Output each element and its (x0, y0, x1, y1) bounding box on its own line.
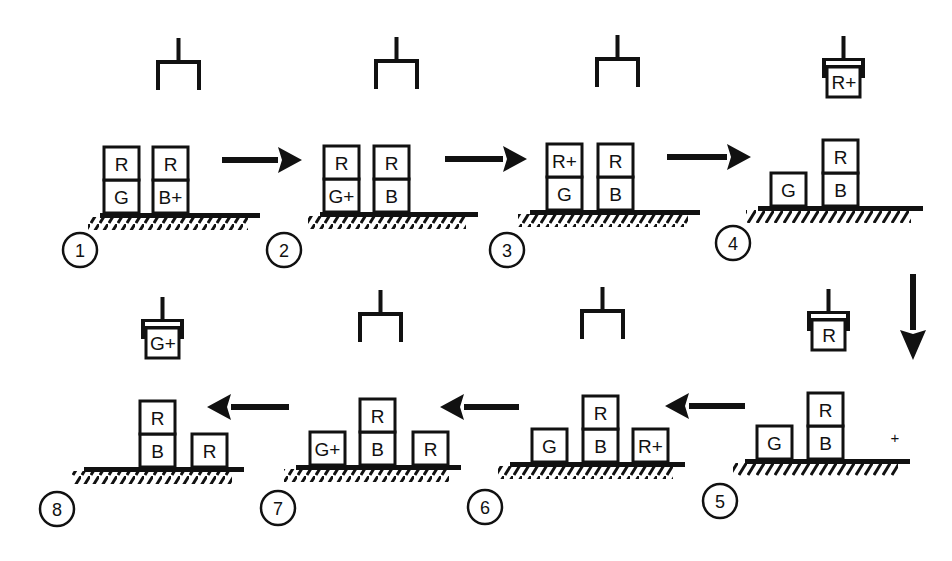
block-stack: G (771, 173, 806, 206)
step-number: 3 (490, 233, 524, 267)
gripper-icon (595, 35, 640, 87)
block-label: R+ (552, 151, 577, 172)
step-number: 6 (468, 490, 502, 524)
step-number-label: 2 (279, 241, 289, 261)
block-label: R (115, 154, 129, 175)
step-number: 1 (63, 233, 97, 267)
held-block-label: R (822, 325, 836, 346)
step-number: 4 (716, 226, 750, 260)
block-label: R (424, 439, 438, 460)
block-stack: BR (140, 401, 175, 467)
held-block: G+ (146, 328, 179, 358)
gripper-icon (358, 290, 403, 342)
block-label: B (594, 436, 607, 457)
block-label: R (594, 403, 608, 424)
gripper-icon: G+ (141, 297, 184, 358)
block-label: R (385, 153, 399, 174)
step-number-label: 7 (273, 499, 283, 519)
block-stack: R+ (633, 429, 668, 462)
block-label: G+ (315, 439, 341, 460)
block: R+ (547, 144, 582, 177)
block-label: R (203, 441, 217, 462)
block: G (757, 426, 792, 459)
block-stack: BR (374, 146, 409, 212)
block-stack: G+ (310, 432, 345, 465)
block: B (823, 173, 858, 206)
block: G (547, 177, 582, 210)
arrow-right-icon (667, 144, 751, 170)
arrow-right-icon (445, 146, 527, 172)
block: G (104, 180, 139, 213)
ground (284, 465, 461, 482)
block-stack: B+R (153, 147, 188, 213)
block-label: B (819, 433, 832, 454)
block-label: G (781, 180, 796, 201)
block: G+ (324, 179, 359, 212)
block-label: R (834, 147, 848, 168)
block: R (583, 396, 618, 429)
arrow-left-icon (440, 394, 519, 420)
panel-4: GBRR+4 (716, 36, 923, 260)
panel-3: GR+BR3 (490, 35, 700, 267)
gripper-icon (156, 38, 201, 90)
step-number-label: 5 (715, 492, 725, 512)
block-label: R (609, 151, 623, 172)
block-label: R (819, 400, 833, 421)
block-stack: BR (360, 399, 395, 465)
block-label: B (834, 180, 847, 201)
block-label: B (371, 439, 384, 460)
blocks-world-diagram: GRB+R1G+RBR2GR+BR3GBRR+4GBRR+5GBRR+6G+BR… (0, 0, 952, 561)
ground (308, 212, 478, 229)
step-number-label: 3 (502, 241, 512, 261)
block: R (413, 432, 448, 465)
block-stack: G (757, 426, 792, 459)
block: R (104, 147, 139, 180)
held-block-label: G+ (150, 333, 176, 354)
step-number-label: 4 (728, 234, 738, 254)
block: G (532, 429, 567, 462)
block-label: G (114, 187, 129, 208)
block-stack: BR (808, 393, 843, 459)
block: G (771, 173, 806, 206)
block: B+ (153, 180, 188, 213)
gripper-icon: R (807, 289, 850, 350)
block: B (140, 434, 175, 467)
step-number-label: 1 (75, 241, 85, 261)
block-label: B+ (159, 187, 183, 208)
panels-layer: GRB+R1G+RBR2GR+BR3GBRR+4GBRR+5GBRR+6G+BR… (40, 35, 923, 526)
arrow-down-icon (900, 274, 926, 360)
block: B (598, 177, 633, 210)
gripper-icon (374, 37, 419, 89)
step-number-label: 8 (52, 500, 62, 520)
block: R+ (633, 429, 668, 462)
block: B (583, 429, 618, 462)
ground (733, 459, 910, 476)
block-stack: R (192, 434, 227, 467)
arrow-right-icon (222, 147, 302, 173)
block-stack: GR (104, 147, 139, 213)
step-number: 8 (40, 492, 74, 526)
block-label: G (767, 433, 782, 454)
panel-1: GRB+R1 (63, 38, 260, 267)
block-label: G+ (329, 186, 355, 207)
block: R (808, 393, 843, 426)
panel-7: G+BRR7 (261, 290, 461, 525)
block-label: R (151, 408, 165, 429)
block-label: R+ (638, 436, 663, 457)
block-label: R (371, 406, 385, 427)
panel-2: G+RBR2 (267, 37, 478, 267)
block: R (140, 401, 175, 434)
held-block-label: R+ (832, 72, 857, 93)
block-label: R (335, 153, 349, 174)
gripper-icon: R+ (822, 36, 865, 97)
block: B (360, 432, 395, 465)
block: R (153, 147, 188, 180)
block-label: B (385, 186, 398, 207)
block: R (598, 144, 633, 177)
step-number: 5 (703, 484, 737, 518)
block: B (808, 426, 843, 459)
ground (498, 462, 685, 479)
block: G+ (310, 432, 345, 465)
held-block: R+ (827, 67, 860, 97)
plus-mark: + (891, 429, 900, 446)
